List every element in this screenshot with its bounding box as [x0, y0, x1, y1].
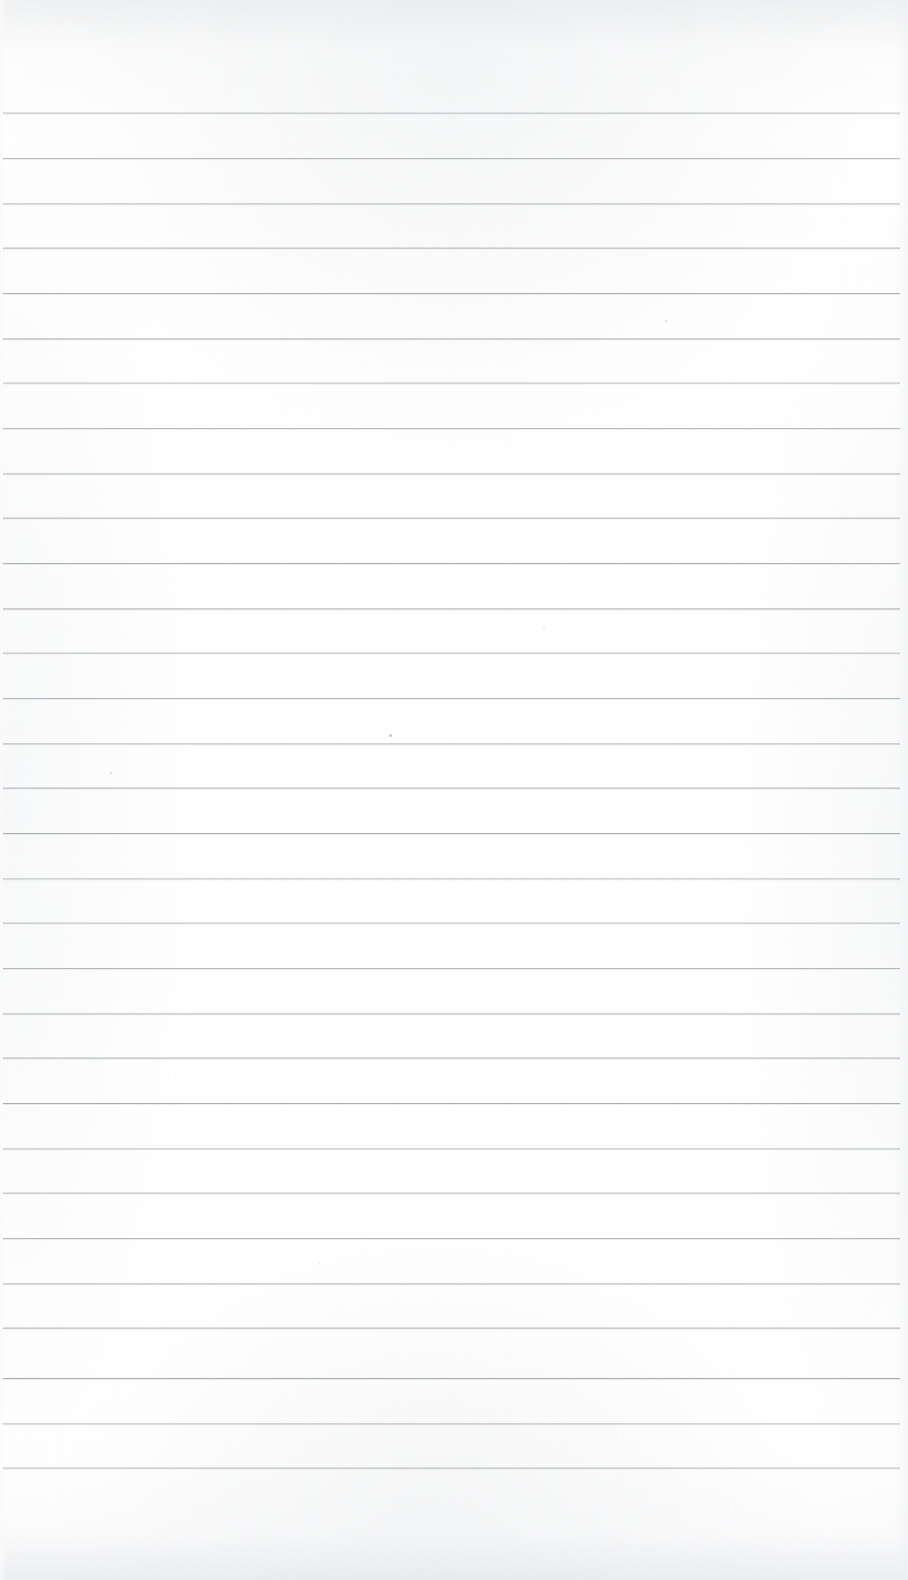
scanned-page: [0, 0, 908, 1580]
writing-area[interactable]: [4, 113, 901, 1469]
